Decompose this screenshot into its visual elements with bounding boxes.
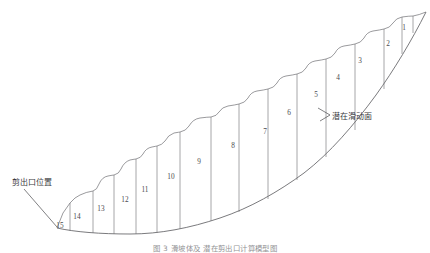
slice-number-group: 1 2 3 4 5 6 7 8 9 10 11 12 13 14 15: [56, 23, 406, 230]
slice-number: 15: [56, 221, 64, 230]
shear-outlet-leader-line: [24, 189, 57, 227]
slice-number: 14: [73, 212, 81, 221]
slice-number: 5: [314, 90, 318, 99]
slice-number: 7: [263, 127, 267, 136]
slice-number: 1: [402, 23, 406, 32]
shear-outlet-label: 剪出口位置: [12, 177, 52, 187]
sliding-surface-label: 潜在滑动面: [332, 111, 372, 121]
slice-number: 9: [197, 157, 201, 166]
slice-number: 4: [336, 73, 340, 82]
slice-number: 8: [231, 141, 235, 150]
slice-number: 10: [167, 172, 175, 181]
slice-number: 2: [386, 39, 390, 48]
slice-number: 6: [287, 108, 291, 117]
slice-number: 13: [97, 204, 105, 213]
slice-number: 11: [141, 185, 148, 194]
potential-sliding-surface-line: [57, 12, 426, 234]
slice-number: 3: [358, 56, 362, 65]
sliding-surface-leader-line: [318, 108, 330, 121]
figure-caption: 图 3 滑坡体及 潜在剪出口计算模型图: [0, 242, 430, 253]
slice-number: 12: [121, 195, 129, 204]
